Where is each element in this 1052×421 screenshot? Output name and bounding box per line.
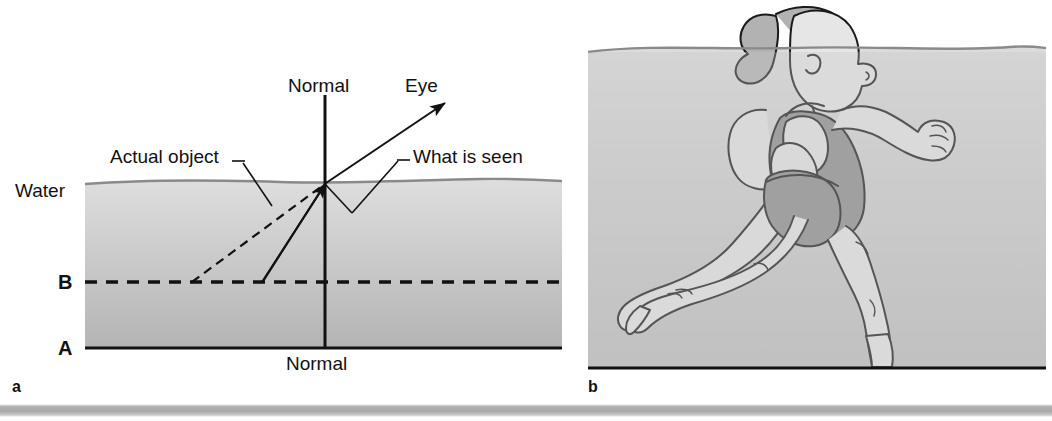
label-depth-b: B [58, 271, 72, 294]
label-water: Water [15, 180, 65, 202]
panel-a-letter: a [12, 378, 21, 396]
label-eye: Eye [405, 75, 438, 97]
label-actual-object: Actual object [110, 146, 219, 168]
label-depth-a: A [58, 337, 72, 360]
refracted-ray-to-eye [326, 103, 445, 183]
bottom-divider-bar [0, 404, 1052, 417]
label-what-is-seen: What is seen [413, 146, 523, 168]
water-veil [588, 52, 1046, 368]
panel-b-letter: b [588, 378, 598, 396]
panel-a-refraction-diagram: Normal Eye Actual object What is seen Wa… [0, 0, 580, 400]
panel-b-underwater-runner: b [580, 0, 1052, 400]
refraction-diagram-svg [0, 0, 580, 400]
label-normal-bottom: Normal [286, 353, 347, 375]
label-normal-top: Normal [288, 75, 349, 97]
underwater-runner-svg [580, 0, 1052, 400]
figure-container: Normal Eye Actual object What is seen Wa… [0, 0, 1052, 421]
